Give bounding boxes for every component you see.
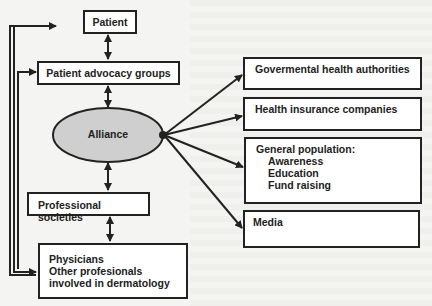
insurance-label: Health insurance companies xyxy=(255,103,397,115)
professional-societies-box: Professional societies xyxy=(27,192,150,216)
media-label: Media xyxy=(253,216,283,228)
media-box: Media xyxy=(243,210,420,248)
insurance-box: Health insurance companies xyxy=(243,97,422,131)
alliance-label: Alliance xyxy=(53,128,163,140)
general-item-fund-raising: Fund raising xyxy=(256,179,420,191)
physicians-line-3: involved in dermatology xyxy=(49,277,186,289)
physicians-box: Physicians Other profesionals involved i… xyxy=(38,243,188,299)
advocacy-groups-box: Patient advocacy groups xyxy=(37,61,180,85)
physicians-line-1: Physicians xyxy=(49,253,186,265)
patient-label: Patient xyxy=(92,16,127,28)
general-title: General population: xyxy=(256,143,420,155)
alliance-media-arrow xyxy=(164,135,242,228)
alliance-general-arrow xyxy=(164,135,243,167)
general-item-awareness: Awareness xyxy=(256,155,420,167)
governmental-box: Govermental health authorities xyxy=(243,57,422,90)
patient-box: Patient xyxy=(83,10,137,34)
general-item-education: Education xyxy=(256,167,420,179)
physicians-line-2: Other profesionals xyxy=(49,265,186,277)
governmental-label: Govermental health authorities xyxy=(255,63,410,75)
general-population-box: General population: Awareness Education … xyxy=(244,137,422,204)
advocacy-physicians-line xyxy=(18,72,36,269)
advocacy-label: Patient advocacy groups xyxy=(46,67,170,79)
